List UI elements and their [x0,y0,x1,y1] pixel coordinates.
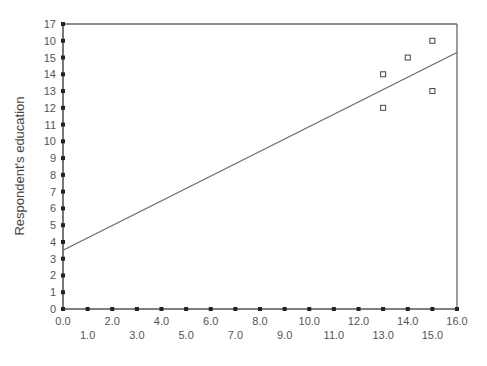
y-tick-label: 6 [50,202,56,214]
x-tick-mark [430,307,434,311]
y-tick-mark [61,240,65,244]
y-tick-mark [61,206,65,210]
data-point [381,105,386,110]
y-tick-label: 15 [44,52,56,64]
x-tick-mark [381,307,385,311]
data-point [430,38,435,43]
x-tick-mark [209,307,213,311]
x-tick-label: 2.0 [105,315,120,327]
y-tick-mark [61,106,65,110]
x-tick-label: 14.0 [397,315,418,327]
regression-line [63,53,457,251]
plot-frame [63,24,457,309]
x-tick-label: 0.0 [55,315,70,327]
x-tick-label: 16.0 [446,315,467,327]
x-tick-mark [110,307,114,311]
y-tick-label: 3 [50,253,56,265]
y-tick-label: 5 [50,219,56,231]
y-tick-label: 12 [44,102,56,114]
x-tick-label: 7.0 [228,329,243,341]
x-tick-label: 3.0 [129,329,144,341]
x-tick-label: 10.0 [299,315,320,327]
y-tick-label: 10 [44,35,56,47]
y-tick-mark [61,273,65,277]
x-tick-mark [233,307,237,311]
x-tick-label: 12.0 [348,315,369,327]
x-tick-mark [258,307,262,311]
x-tick-mark [283,307,287,311]
y-tick-label: 7 [50,186,56,198]
y-tick-mark [61,156,65,160]
x-tick-mark [357,307,361,311]
y-tick-label: 11 [45,119,56,131]
data-point [405,55,410,60]
y-tick-label: 1 [50,286,56,298]
x-tick-label: 15.0 [422,329,443,341]
x-tick-mark [332,307,336,311]
x-tick-label: 9.0 [277,329,292,341]
y-tick-mark [61,257,65,261]
y-tick-mark [61,223,65,227]
y-axis: 01234567891011121314151017 [44,18,65,315]
x-tick-label: 1.0 [80,329,95,341]
x-tick-label: 13.0 [372,329,393,341]
y-tick-mark [61,139,65,143]
y-tick-label: 13 [44,85,56,97]
y-tick-mark [61,190,65,194]
x-tick-label: 4.0 [154,315,169,327]
x-tick-mark [86,307,90,311]
x-tick-mark [160,307,164,311]
y-tick-label: 0 [50,303,56,315]
x-tick-mark [135,307,139,311]
scatter-chart: 01234567891011121314151017 0.01.02.03.04… [0,0,487,366]
y-tick-mark [61,22,65,26]
y-axis-title: Respondent's education [12,96,27,235]
y-tick-mark [61,72,65,76]
y-tick-label: 17 [44,18,56,30]
regression-line-group [63,53,457,251]
x-tick-mark [455,307,459,311]
data-point [381,72,386,77]
x-axis: 0.01.02.03.04.05.06.07.08.09.010.011.012… [55,307,467,341]
y-tick-label: 14 [44,68,56,80]
x-tick-mark [184,307,188,311]
y-tick-mark [61,56,65,60]
y-tick-mark [61,290,65,294]
x-tick-label: 5.0 [178,329,193,341]
x-tick-label: 11.0 [324,329,345,341]
y-tick-label: 2 [50,269,56,281]
y-tick-mark [61,123,65,127]
y-tick-label: 8 [50,169,56,181]
y-tick-label: 4 [50,236,56,248]
x-tick-label: 6.0 [203,315,218,327]
data-point [430,89,435,94]
y-tick-mark [61,173,65,177]
x-tick-label: 8.0 [252,315,267,327]
y-tick-label: 10 [44,135,56,147]
y-tick-mark [61,89,65,93]
x-tick-mark [307,307,311,311]
data-points [381,38,435,110]
y-tick-label: 9 [50,152,56,164]
y-tick-mark [61,39,65,43]
x-tick-mark [406,307,410,311]
x-tick-mark [61,307,65,311]
